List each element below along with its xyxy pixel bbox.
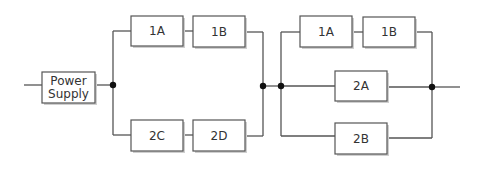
- block-left-1b: 1B: [193, 16, 247, 49]
- reliability-block-diagram: Power Supply 1A 1B 2C 2D 1A 1B 2A: [0, 0, 485, 182]
- junction-dot-3: [278, 83, 284, 89]
- block-label: 1B: [211, 25, 227, 39]
- block-right-2a: 2A: [335, 71, 389, 103]
- block-left-2c: 2C: [131, 120, 185, 153]
- block-left-2d: 2D: [193, 120, 247, 153]
- block-label: 2C: [149, 129, 165, 143]
- block-label: 2D: [211, 129, 228, 143]
- power-supply-label-line1: Power: [50, 74, 86, 88]
- block-left-1a: 1A: [131, 16, 185, 48]
- block-right-1b: 1B: [363, 17, 417, 49]
- block-right-1a: 1A: [300, 16, 354, 49]
- junction-dot-1: [110, 82, 116, 88]
- block-label: 1A: [149, 24, 166, 38]
- block-right-2b: 2B: [335, 123, 389, 156]
- power-supply-block: Power Supply: [42, 72, 97, 105]
- junction-dot-2: [260, 83, 266, 89]
- block-label: 2A: [353, 79, 370, 93]
- block-label: 2B: [353, 132, 369, 146]
- power-supply-label-line2: Supply: [48, 87, 89, 101]
- junction-dot-4: [429, 84, 435, 90]
- block-label: 1A: [318, 25, 335, 39]
- block-label: 1B: [381, 25, 397, 39]
